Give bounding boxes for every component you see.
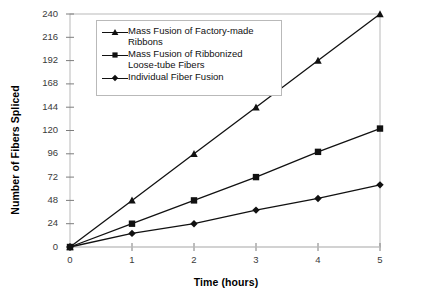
square-marker — [315, 149, 321, 155]
square-marker — [129, 221, 135, 227]
square-icon — [111, 51, 119, 59]
square-marker — [253, 174, 259, 180]
square-marker — [191, 197, 197, 203]
legend-label-line1: Mass Fusion of Factory-made — [128, 25, 254, 36]
line-chart: Number of Fibers Spliced Time (hours) 24… — [0, 0, 440, 300]
x-tick-marks — [70, 243, 380, 251]
diamond-marker — [252, 206, 259, 213]
chart-legend: Mass Fusion of Factory-made Ribbons Mass… — [96, 20, 282, 96]
legend-label-line1: Individual Fiber Fusion — [128, 71, 224, 82]
diamond-marker — [190, 220, 197, 227]
legend-label-line2: Ribbons — [128, 36, 163, 47]
legend-item-ribbonized-loose-tube: Mass Fusion of Ribbonized Loose-tube Fib… — [102, 48, 276, 70]
series-2 — [67, 125, 383, 250]
legend-label: Mass Fusion of Ribbonized Loose-tube Fib… — [128, 48, 243, 70]
triangle-icon — [111, 28, 119, 36]
diamond-marker — [128, 230, 135, 237]
square-marker — [377, 125, 383, 131]
diamond-marker — [314, 195, 321, 202]
series-3 — [66, 181, 383, 251]
legend-label-line2: Loose-tube Fibers — [128, 59, 205, 70]
legend-item-factory-made-ribbons: Mass Fusion of Factory-made Ribbons — [102, 25, 276, 47]
diamond-marker — [376, 181, 383, 188]
legend-key-triangle — [102, 26, 128, 38]
legend-key-square — [102, 49, 128, 61]
diamond-icon — [111, 74, 119, 82]
legend-key-diamond — [102, 72, 128, 84]
legend-item-individual-fiber-fusion: Individual Fiber Fusion — [102, 71, 276, 84]
legend-label: Individual Fiber Fusion — [128, 71, 224, 82]
legend-label-line1: Mass Fusion of Ribbonized — [128, 48, 243, 59]
legend-label: Mass Fusion of Factory-made Ribbons — [128, 25, 254, 47]
